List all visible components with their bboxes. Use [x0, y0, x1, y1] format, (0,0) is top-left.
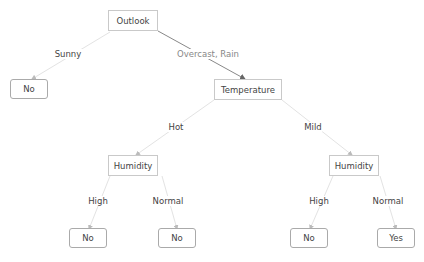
node-outlook[interactable]: Outlook [108, 10, 158, 31]
leaf-hot-high-no[interactable]: No [69, 228, 107, 248]
edge-lines [0, 0, 424, 262]
edge-label-hot: Hot [168, 122, 185, 132]
edge-label-sunny: Sunny [54, 49, 83, 59]
edge-label-mild: Mild [303, 122, 322, 132]
node-temperature[interactable]: Temperature [214, 79, 282, 100]
edge-label-hot-high: High [87, 196, 109, 206]
node-humidity-hot[interactable]: Humidity [108, 155, 158, 176]
leaf-sunny-no[interactable]: No [10, 79, 48, 99]
leaf-hot-normal-no[interactable]: No [158, 228, 196, 248]
edge-label-mild-normal: Normal [372, 196, 405, 206]
leaf-mild-normal-yes[interactable]: Yes [377, 228, 415, 248]
edge-label-overcast-rain: Overcast, Rain [176, 49, 240, 59]
edge-label-hot-normal: Normal [152, 196, 185, 206]
edge-label-mild-high: High [308, 196, 330, 206]
leaf-mild-high-no[interactable]: No [290, 228, 328, 248]
node-humidity-mild[interactable]: Humidity [329, 155, 379, 176]
